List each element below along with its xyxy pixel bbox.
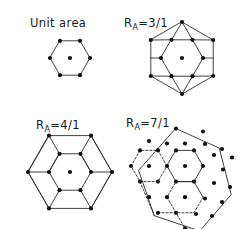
lattice-node [169,38,173,42]
lattice-node [174,180,178,184]
lattice-node [212,181,216,185]
lattice-node [129,164,133,168]
ratio-value: =7/1 [140,116,170,130]
lattice-node [201,56,205,60]
lattice-node [58,39,62,43]
lattice-node [220,200,224,204]
lattice-node [190,38,194,42]
lattice-node [203,142,207,146]
lattice-node [228,185,232,189]
ratio-value: =3/1 [138,16,168,30]
lattice-node [169,74,173,78]
lattice-node [156,211,160,215]
lattice-node [165,195,169,199]
lattice-node [57,152,61,156]
lattice-node-center [183,164,187,168]
lattice-node [165,164,169,168]
lattice-node [78,152,82,156]
lattice-node [47,206,51,210]
lattice-node [57,188,61,192]
lattice-node [89,206,93,210]
lattice-node [147,139,151,143]
lattice-node [221,167,225,171]
ratio-symbol-r: R [36,118,44,132]
panel-unit-area: Unit area [30,16,92,77]
figure-container: Unit area RA=3/1 [0,0,250,229]
lattice-node [147,195,151,199]
ratio-value: =4/1 [50,118,80,132]
panel-label-ratio-4-1: RA=4/1 [36,118,80,134]
lattice-node [88,56,92,60]
panel-label-unit-area: Unit area [30,16,86,30]
lattice-node [89,134,93,138]
spoke-line [91,172,112,208]
lattice-node [192,148,196,152]
lattice-node [220,147,224,151]
spoke-line [49,136,60,154]
lattice-node [194,212,198,216]
lattice-diagram-svg: Unit area RA=3/1 [0,0,250,229]
lattice-node [211,38,215,42]
lattice-node [58,73,62,77]
panel-ratio-4-1: RA=4/1 [26,118,114,210]
lattice-node-center [68,56,72,60]
spoke-line [91,136,112,172]
spoke-line [81,154,92,172]
lattice-node-center [68,170,72,174]
lattice-node [192,180,196,184]
lattice-node [78,73,82,77]
spoke-line [49,190,60,208]
lattice-node [48,56,52,60]
panel-label-ratio-7-1: RA=7/1 [126,116,170,132]
spoke-line [81,190,92,208]
lattice-node [183,141,187,145]
lattice-node [26,170,30,174]
lattice-node [180,92,184,96]
lattice-node [159,56,163,60]
panel-label-ratio-3-1: RA=3/1 [124,16,168,32]
ratio-symbol-r: R [126,116,134,130]
lattice-node [174,211,178,215]
lattice-node [230,155,234,159]
lattice-node [174,148,178,152]
lattice-node [147,164,151,168]
hexagon-cell-lower-solid-7-1 [176,182,203,198]
lattice-node-center [180,56,184,60]
spoke-line [28,136,49,172]
lattice-node [138,180,142,184]
lattice-node [78,188,82,192]
panel-ratio-7-1: RA=7/1 [126,116,234,229]
spoke-line [81,136,92,154]
lattice-node [201,164,205,168]
lattice-node [203,196,207,200]
lattice-node [156,148,160,152]
lattice-node [47,170,51,174]
lattice-node [156,180,160,184]
lattice-node [138,148,142,152]
lattice-node [201,129,205,133]
lattice-node [110,170,114,174]
lattice-node [180,20,184,24]
lattice-node [210,214,214,218]
lattice-node [211,74,215,78]
lattice-node [174,127,178,131]
lattice-node [190,74,194,78]
lattice-node [149,74,153,78]
lattice-node [183,195,187,199]
spoke-line [28,172,49,208]
lattice-node [165,141,169,145]
lattice-node [149,38,153,42]
lattice-node [78,39,82,43]
lattice-node [89,170,93,174]
spoke-line [49,154,60,172]
lattice-node [47,134,51,138]
lattice-node [212,153,216,157]
boundary-dashed-stub-7-1 [158,213,200,229]
panel-ratio-3-1: RA=3/1 [124,16,215,96]
ratio-symbol-r: R [124,16,132,30]
